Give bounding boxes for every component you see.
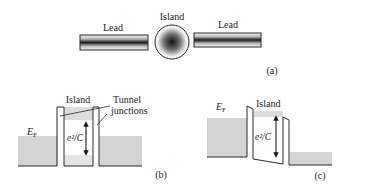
left-lead-fill [18,136,58,166]
lead-right [194,33,261,47]
fermi-sub: F [33,131,37,139]
panel-b: Island Tunnel junctions EF e²/C (b) [18,94,167,181]
lead-left [80,35,148,50]
right-lead-fill [290,152,332,165]
tunnel-label-line2: junctions [110,105,148,116]
panel-c: EF Island e²/C (c) [207,98,332,182]
charging-energy-label: e²/C [67,133,84,143]
lead-right-label: Lead [218,19,238,30]
fermi-sub: F [222,106,226,114]
island-dot [155,25,189,59]
tunnel-label-line1: Tunnel [113,94,141,105]
island-label: Island [256,98,280,109]
fermi-main: E [215,101,222,112]
fermi-level-label: EF [215,101,226,114]
panel-b-label: (b) [155,169,167,181]
island-fill-lower [64,155,93,166]
panel-a: Lead Island Lead (a) [80,11,278,77]
lead-left-label: Lead [103,22,123,33]
single-electron-transistor-diagram: Lead Island Lead (a) Island Tunnel junct… [0,0,375,190]
fermi-main: E [26,126,33,137]
island-fill-upper [64,107,93,120]
right-lead-fill [99,136,142,166]
charging-energy-label: e²/C [255,132,272,142]
left-lead-fill [207,118,247,157]
island-fill [254,111,283,117]
panel-c-label: (c) [314,170,325,182]
island-label: Island [66,94,90,105]
island-label: Island [160,11,184,22]
panel-a-label: (a) [266,65,277,77]
